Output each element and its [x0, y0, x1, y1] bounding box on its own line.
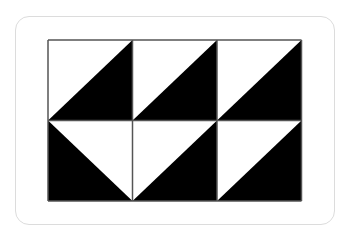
- triangle-grid: [47, 39, 303, 202]
